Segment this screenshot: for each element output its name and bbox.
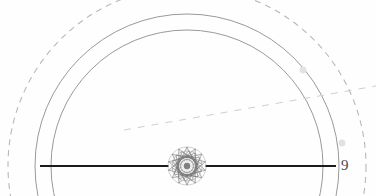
scanned-diagram-page: 9 [0, 0, 376, 196]
faint-dot-lower-right [339, 140, 346, 147]
central-star-rosette [168, 147, 206, 185]
geometric-figure [0, 0, 376, 196]
rosette-hub [184, 163, 190, 169]
page-number: 9 [341, 158, 349, 173]
faint-dot-upper-right [300, 67, 307, 74]
